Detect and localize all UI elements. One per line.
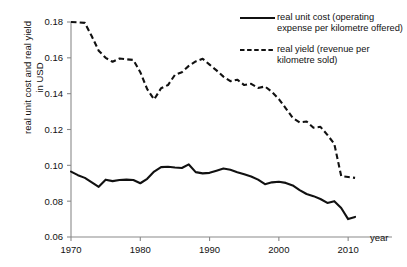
x-tick-label: 1970 (60, 244, 81, 255)
x-tick-label: 1980 (130, 244, 151, 255)
x-axis-ticks: 19701980199020002010 (60, 237, 358, 255)
y-tick-label: 0.12 (45, 124, 64, 135)
series-real-unit-cost-line (71, 164, 355, 219)
x-axis: 19701980199020002010 year (60, 232, 392, 255)
y-tick-label: 0.16 (45, 52, 64, 63)
y-tick-label: 0.08 (45, 196, 64, 207)
y-tick-label: 0.14 (45, 88, 64, 99)
y-axis-ticks: 0.060.080.100.120.140.160.18 (45, 16, 72, 242)
y-axis: 0.060.080.100.120.140.160.18 (45, 16, 72, 242)
x-axis-title: year (370, 232, 388, 243)
x-tick-label: 2000 (268, 244, 289, 255)
x-tick-label: 1990 (199, 244, 220, 255)
series-real-yield-line (71, 22, 355, 178)
x-tick-label: 2010 (338, 244, 359, 255)
y-tick-label: 0.18 (45, 16, 64, 27)
y-tick-label: 0.06 (45, 231, 64, 242)
y-tick-label: 0.10 (45, 160, 64, 171)
legend (240, 18, 275, 50)
chart-svg: 0.060.080.100.120.140.160.18 19701980199… (0, 0, 407, 267)
chart-container: real unit cost and real yield in USD rea… (0, 0, 407, 267)
